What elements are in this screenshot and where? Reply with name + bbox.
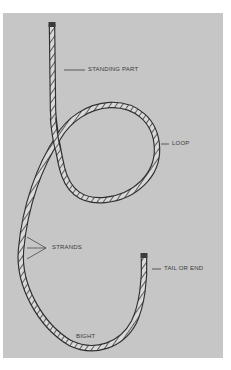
standing-end-whipping — [49, 22, 56, 27]
strands-leader — [27, 237, 46, 259]
rope-diagram — [0, 0, 231, 370]
label-loop: LOOP — [172, 140, 189, 146]
rope — [21, 24, 157, 348]
label-tail-or-end: TAIL OR END — [164, 265, 203, 271]
label-strands: STRANDS — [52, 244, 82, 250]
label-standing-part: STANDING PART — [88, 66, 138, 72]
label-bight: BIGHT — [76, 333, 95, 339]
tail-end-whipping — [141, 253, 148, 258]
